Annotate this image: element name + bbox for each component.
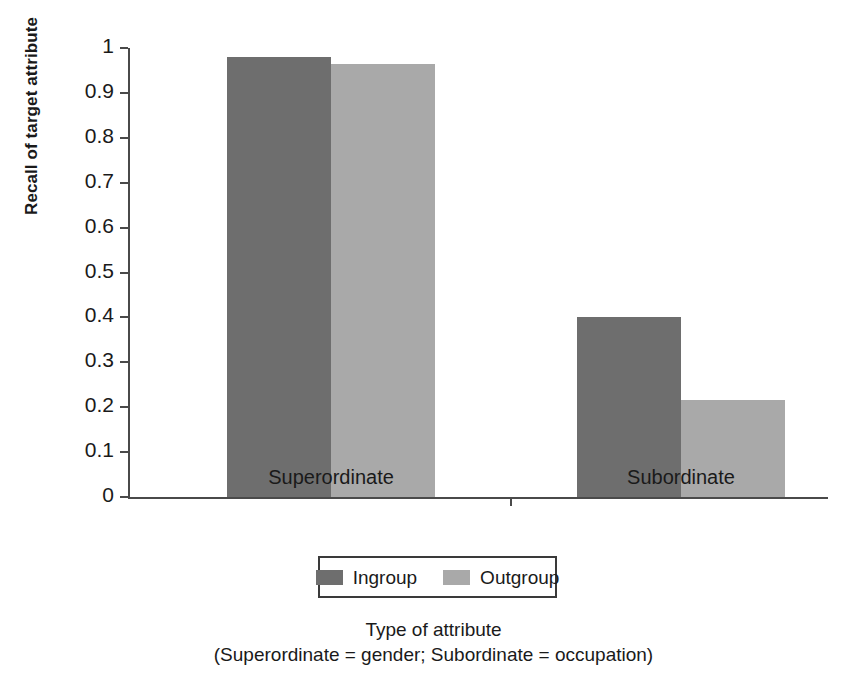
y-tick: 0.1 — [120, 451, 128, 453]
legend-label-ingroup: Ingroup — [353, 568, 417, 587]
y-tick-label: 0 — [102, 483, 114, 507]
bar-superordinate-outgroup — [331, 64, 435, 497]
category-label-subordinate: Subordinate — [571, 466, 791, 489]
x-tick — [510, 497, 512, 506]
legend-label-outgroup: Outgroup — [480, 568, 559, 587]
y-tick-label: 0.4 — [85, 303, 114, 327]
legend-swatch-outgroup — [443, 570, 470, 585]
y-tick: 0 — [120, 496, 128, 498]
y-tick: 0.7 — [120, 182, 128, 184]
y-tick: 0.5 — [120, 272, 128, 274]
y-tick-label: 0.2 — [85, 393, 114, 417]
y-tick-label: 0.9 — [85, 79, 114, 103]
x-axis-title-note: (Superordinate = gender; Subordinate = o… — [0, 642, 867, 667]
y-tick: 0.4 — [120, 316, 128, 318]
x-axis-title: Type of attribute — [0, 617, 867, 642]
y-tick: 0.3 — [120, 361, 128, 363]
y-tick-label: 0.5 — [85, 259, 114, 283]
legend-item-outgroup: Outgroup — [443, 568, 559, 587]
y-tick-label: 0.7 — [85, 169, 114, 193]
bar-superordinate-ingroup — [227, 57, 331, 497]
x-axis-line — [128, 497, 828, 499]
y-tick-label: 0.3 — [85, 348, 114, 372]
chart-legend: Ingroup Outgroup — [318, 556, 557, 598]
y-tick: 1 — [120, 47, 128, 49]
y-tick: 0.6 — [120, 227, 128, 229]
y-tick-label: 0.8 — [85, 124, 114, 148]
x-axis-caption: Type of attribute (Superordinate = gende… — [0, 617, 867, 667]
bar-chart-figure: Recall of target attribute 10.90.80.70.6… — [0, 0, 867, 687]
y-tick-label: 0.1 — [85, 438, 114, 462]
y-tick-label: 1 — [102, 34, 114, 58]
legend-item-ingroup: Ingroup — [316, 568, 417, 587]
y-axis-line — [128, 48, 130, 497]
category-label-superordinate: Superordinate — [221, 466, 441, 489]
y-tick: 0.9 — [120, 92, 128, 94]
y-tick-label: 0.6 — [85, 214, 114, 238]
y-tick: 0.8 — [120, 137, 128, 139]
y-axis-title: Recall of target attribute — [22, 0, 42, 215]
legend-swatch-ingroup — [316, 570, 343, 585]
y-tick: 0.2 — [120, 406, 128, 408]
plot-area: 10.90.80.70.60.50.40.30.20.10 — [128, 48, 828, 497]
